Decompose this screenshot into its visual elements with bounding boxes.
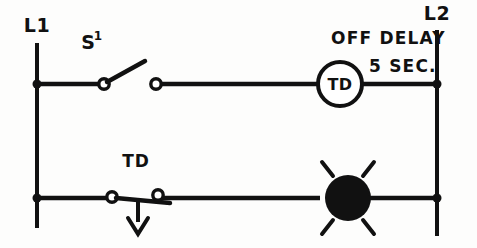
- junction-dot-l2-rung1: [433, 80, 442, 89]
- junction-dot-l2-rung2: [433, 194, 442, 203]
- rung-1-timer-coil: S 1 TD OFF DELAY 5 SEC.: [33, 28, 446, 106]
- left-rail-label: L1: [24, 14, 50, 36]
- indicator-lamp[interactable]: [325, 175, 371, 221]
- contact-td-label: TD: [122, 151, 150, 171]
- timer-annotation-duration: 5 SEC.: [369, 56, 437, 76]
- lamp-ray-lower-right: [363, 220, 374, 234]
- contact-td-right-terminal[interactable]: [153, 190, 163, 200]
- timer-annotation-off-delay: OFF DELAY: [331, 28, 446, 48]
- switch-s1-label-superscript: 1: [94, 29, 102, 43]
- timer-coil-td-label: TD: [327, 75, 352, 94]
- lamp-ray-upper-right: [363, 162, 374, 176]
- ladder-diagram-canvas: L1 L2 S 1 TD: [0, 0, 477, 248]
- junction-dot-l1-rung1: [33, 80, 42, 89]
- rung-2-lamp: TD: [33, 151, 442, 234]
- right-rail-label: L2: [424, 2, 450, 24]
- switch-s1-fixed-contact[interactable]: [151, 79, 161, 89]
- junction-dot-l1-rung2: [33, 194, 42, 203]
- switch-s1-label: S: [81, 31, 95, 53]
- switch-s1-blade[interactable]: [107, 61, 145, 82]
- lamp-ray-lower-left: [322, 220, 333, 234]
- ladder-logic-svg: L1 L2 S 1 TD: [0, 0, 477, 248]
- lamp-ray-upper-left: [322, 162, 333, 176]
